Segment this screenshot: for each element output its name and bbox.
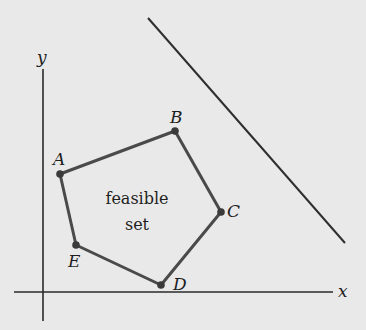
x-axis-label: x xyxy=(338,281,348,301)
vertex-e-label: E xyxy=(67,251,81,271)
feasible-set-polygon xyxy=(60,131,221,285)
vertex-d-label: D xyxy=(172,274,187,294)
vertex-b-label: B xyxy=(169,107,183,127)
vertex-d-dot xyxy=(157,281,165,289)
vertex-e-dot xyxy=(72,241,80,249)
vertex-a-label: A xyxy=(51,149,65,169)
region-label-line2: set xyxy=(125,215,150,234)
vertex-c-dot xyxy=(217,208,225,216)
vertex-b-dot xyxy=(171,127,179,135)
vertex-a-dot xyxy=(56,170,64,178)
feasible-set-diagram: x y A B C D E feasible set xyxy=(0,0,366,330)
vertex-c-label: C xyxy=(227,201,240,221)
region-label-line1: feasible xyxy=(105,189,168,208)
y-axis-label: y xyxy=(36,47,47,67)
